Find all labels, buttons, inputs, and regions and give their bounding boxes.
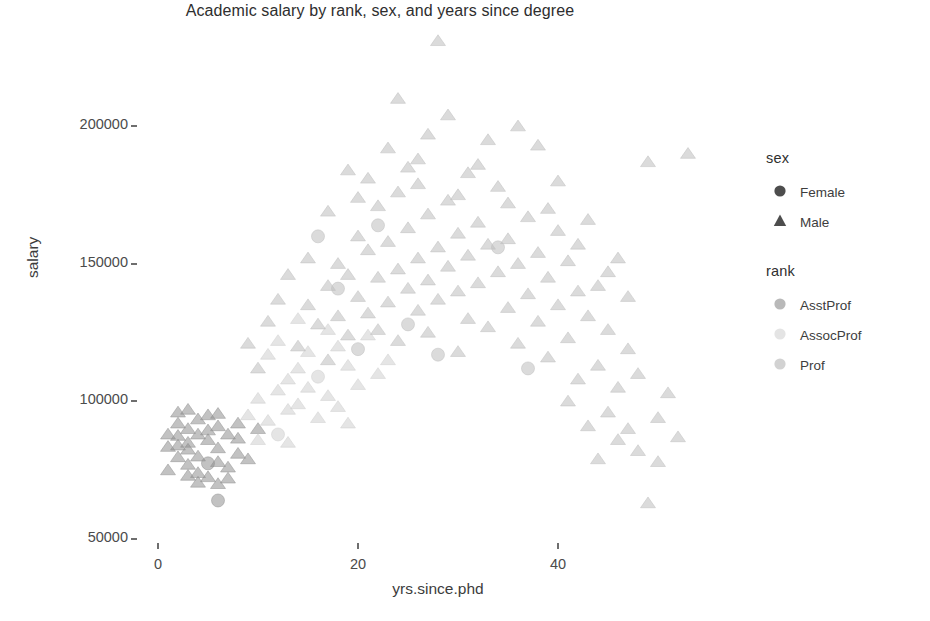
data-point bbox=[371, 271, 386, 282]
legend-item-asstprof[interactable]: AsstProf bbox=[766, 290, 930, 320]
data-point bbox=[491, 181, 506, 192]
data-point bbox=[321, 390, 336, 401]
data-point bbox=[361, 307, 376, 318]
data-point bbox=[321, 205, 336, 216]
data-point bbox=[531, 139, 546, 150]
legend-label: Female bbox=[800, 185, 845, 200]
data-point bbox=[471, 159, 486, 170]
data-point bbox=[372, 219, 385, 232]
legend-label: AsstProf bbox=[800, 298, 851, 313]
data-point bbox=[301, 299, 316, 310]
data-point bbox=[371, 368, 386, 379]
data-point bbox=[481, 134, 496, 145]
data-point bbox=[441, 260, 456, 271]
plot-panel bbox=[138, 30, 738, 550]
data-point bbox=[531, 247, 546, 258]
data-point bbox=[461, 313, 476, 324]
data-point bbox=[521, 211, 536, 222]
circle-icon bbox=[766, 322, 800, 348]
data-point bbox=[581, 214, 596, 225]
data-point bbox=[251, 362, 266, 373]
legend-rank: rankAsstProfAssocProfProf bbox=[766, 263, 930, 380]
data-point bbox=[551, 175, 566, 186]
y-tick-mark bbox=[131, 400, 137, 402]
data-point bbox=[601, 406, 616, 417]
circle-icon bbox=[766, 179, 800, 205]
data-point bbox=[421, 274, 436, 285]
data-point bbox=[301, 252, 316, 263]
legend-item-prof[interactable]: Prof bbox=[766, 350, 930, 380]
data-point bbox=[541, 203, 556, 214]
legend-item-male[interactable]: Male bbox=[766, 207, 930, 237]
data-points-layer bbox=[138, 30, 738, 550]
data-point bbox=[411, 304, 426, 315]
data-point bbox=[661, 387, 676, 398]
data-point bbox=[291, 313, 306, 324]
data-point bbox=[271, 335, 286, 346]
data-point bbox=[391, 263, 406, 274]
data-point bbox=[271, 293, 286, 304]
data-point bbox=[441, 109, 456, 120]
data-point bbox=[421, 326, 436, 337]
legend-area: sexFemaleMalerankAsstProfAssocProfProf bbox=[766, 150, 930, 406]
data-point bbox=[251, 434, 266, 445]
x-tick-label: 0 bbox=[128, 556, 188, 572]
data-point bbox=[211, 420, 226, 431]
data-point bbox=[561, 332, 576, 343]
data-point bbox=[522, 362, 535, 375]
data-point bbox=[332, 282, 345, 295]
data-point bbox=[501, 197, 516, 208]
data-point bbox=[451, 189, 466, 200]
data-point bbox=[671, 431, 686, 442]
data-point bbox=[381, 354, 396, 365]
data-point bbox=[311, 318, 326, 329]
data-point bbox=[241, 337, 256, 348]
triangle-icon bbox=[766, 209, 800, 235]
data-point bbox=[531, 315, 546, 326]
x-tick-mark bbox=[157, 543, 159, 549]
legend-label: AssocProf bbox=[800, 328, 862, 343]
data-point bbox=[331, 258, 346, 269]
data-point bbox=[601, 266, 616, 277]
data-point bbox=[331, 340, 346, 351]
data-point bbox=[381, 296, 396, 307]
data-point bbox=[481, 321, 496, 332]
data-point bbox=[241, 409, 256, 420]
data-point bbox=[211, 408, 226, 419]
data-point bbox=[231, 447, 246, 458]
data-point bbox=[571, 285, 586, 296]
chart-figure: Academic salary by rank, sex, and years … bbox=[0, 0, 930, 621]
data-point bbox=[351, 291, 366, 302]
data-point bbox=[591, 453, 606, 464]
data-point bbox=[351, 192, 366, 203]
x-tick-mark bbox=[357, 543, 359, 549]
data-point bbox=[221, 472, 236, 483]
data-point bbox=[451, 346, 466, 357]
data-point bbox=[341, 329, 356, 340]
data-point bbox=[401, 282, 416, 293]
data-point bbox=[291, 340, 306, 351]
x-tick-label: 20 bbox=[328, 556, 388, 572]
data-point bbox=[581, 420, 596, 431]
legend-sex: sexFemaleMale bbox=[766, 150, 930, 237]
data-point bbox=[341, 164, 356, 175]
data-point bbox=[351, 379, 366, 390]
data-point bbox=[451, 227, 466, 238]
data-point bbox=[621, 291, 636, 302]
y-tick-label: 150000 bbox=[36, 254, 128, 270]
y-tick-label: 50000 bbox=[36, 529, 128, 545]
data-point bbox=[251, 392, 266, 403]
data-point bbox=[402, 318, 415, 331]
legend-item-female[interactable]: Female bbox=[766, 177, 930, 207]
data-point bbox=[431, 293, 446, 304]
data-point bbox=[561, 395, 576, 406]
data-point bbox=[431, 241, 446, 252]
data-point bbox=[331, 401, 346, 412]
data-point bbox=[361, 244, 376, 255]
data-point bbox=[591, 280, 606, 291]
chart-title: Academic salary by rank, sex, and years … bbox=[0, 2, 760, 20]
data-point bbox=[281, 373, 296, 384]
data-point bbox=[411, 153, 426, 164]
legend-item-assocprof[interactable]: AssocProf bbox=[766, 320, 930, 350]
data-point bbox=[281, 269, 296, 280]
